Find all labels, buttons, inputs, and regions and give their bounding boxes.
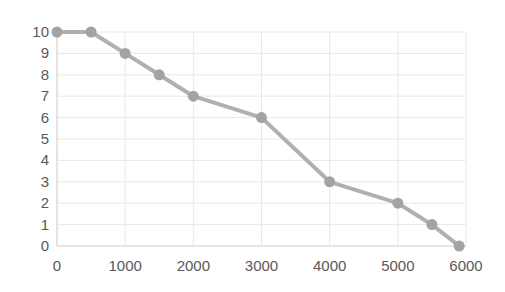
line-chart: 012345678910 0100020003000400050006000 [0, 0, 505, 292]
data-point-marker [188, 91, 199, 102]
chart-background [0, 0, 505, 292]
x-axis-tick-label: 6000 [426, 258, 505, 273]
data-point-marker [256, 112, 267, 123]
y-axis-tick-label: 0 [41, 238, 49, 253]
y-axis-tick-label: 5 [41, 131, 49, 146]
y-axis-tick-label: 4 [41, 152, 49, 167]
y-axis-tick-label: 8 [41, 67, 49, 82]
data-point-marker [154, 69, 165, 80]
data-point-marker [324, 176, 335, 187]
data-point-marker [86, 27, 97, 38]
y-axis-tick-label: 3 [41, 174, 49, 189]
y-axis-tick-label: 9 [41, 45, 49, 60]
y-axis-tick-label: 2 [41, 195, 49, 210]
y-axis-tick-label: 7 [41, 88, 49, 103]
data-point-marker [454, 241, 465, 252]
y-axis-tick-label: 1 [41, 217, 49, 232]
chart-plot-area [0, 0, 505, 292]
data-point-marker [52, 27, 63, 38]
y-axis-tick-label: 10 [32, 24, 49, 39]
data-point-marker [120, 48, 131, 59]
data-point-marker [426, 219, 437, 230]
y-axis-tick-label: 6 [41, 110, 49, 125]
data-point-marker [392, 198, 403, 209]
